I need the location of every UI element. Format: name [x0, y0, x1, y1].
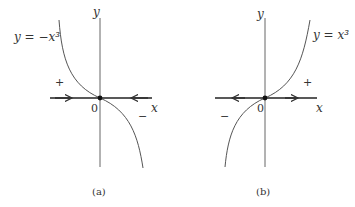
sign-plus: + [55, 76, 64, 89]
y-axis-label: y [256, 7, 264, 21]
equilibrium-point [98, 96, 103, 101]
x-axis-label: x [151, 101, 158, 115]
equation-label: y = x³ [312, 28, 349, 42]
sign-plus: + [303, 76, 312, 89]
origin-label: 0 [257, 102, 264, 115]
caption-b: (b) [256, 186, 270, 197]
caption-a: (a) [92, 186, 106, 197]
sign-minus: − [138, 110, 147, 123]
equilibrium-point [263, 96, 268, 101]
figure: y y = −x³ + 0 x − (a) y y = x³ + 0 x − (… [0, 0, 355, 207]
equation-label: y = −x³ [13, 30, 60, 44]
origin-label: 0 [91, 102, 98, 115]
y-axis-label: y [92, 5, 100, 19]
curve-neg-x-cubed [59, 20, 143, 168]
curve-x-cubed [225, 20, 310, 167]
panel-a: y y = −x³ + 0 x − (a) [13, 5, 158, 197]
sign-minus: − [220, 110, 229, 123]
x-axis-label: x [316, 101, 323, 115]
panel-b: y y = x³ + 0 x − (b) [215, 7, 349, 197]
